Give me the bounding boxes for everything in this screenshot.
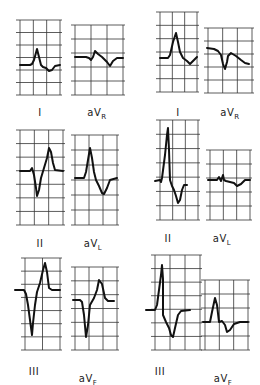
grid-paper: [206, 150, 252, 220]
lead-label: aVF: [203, 373, 243, 385]
ecg-trace: [160, 33, 197, 64]
ecg-panel-r-avr: [204, 28, 254, 93]
ecg-panel-r-i: [156, 12, 199, 92]
grid-paper: [156, 12, 199, 92]
lead-label: I: [20, 107, 60, 118]
ecg-trace: [20, 49, 60, 71]
lead-label: I: [158, 107, 198, 118]
ecg-canvas: [0, 0, 260, 385]
ecg-trace: [75, 148, 117, 194]
grid-paper: [71, 25, 125, 95]
ecg-figure: IaVRIaVRIIaVLIIaVLIIIaVFIIIaVF: [0, 0, 260, 385]
ecg-panel-l-avf: [71, 267, 119, 350]
lead-label: aVR: [210, 107, 250, 121]
lead-label: aVR: [77, 107, 117, 121]
grid-paper: [151, 255, 202, 350]
grid-paper: [204, 28, 254, 93]
lead-label: II: [148, 233, 188, 244]
lead-label: II: [20, 238, 60, 249]
ecg-panel-l-avl: [71, 135, 119, 225]
ecg-panel-l-i: [16, 20, 62, 95]
ecg-trace: [208, 175, 250, 186]
lead-label: aVL: [202, 233, 242, 247]
lead-label: aVF: [68, 373, 108, 385]
grid-paper: [71, 267, 119, 350]
ecg-trace: [20, 148, 63, 196]
ecg-trace: [203, 298, 248, 332]
ecg-panel-r-avf: [201, 280, 250, 350]
ecg-panel-r-ii: [155, 120, 200, 220]
ecg-panel-r-avl: [206, 150, 252, 220]
ecg-panel-l-avr: [71, 25, 125, 95]
ecg-trace: [146, 265, 190, 337]
ecg-panel-l-ii: [16, 130, 65, 225]
grid-paper: [201, 280, 250, 350]
lead-label: aVL: [73, 238, 113, 252]
ecg-trace: [15, 263, 60, 335]
lead-label: III: [14, 366, 54, 377]
ecg-panel-r-iii: [146, 255, 202, 350]
lead-label: III: [140, 366, 180, 377]
ecg-trace: [207, 48, 249, 69]
ecg-panel-l-iii: [15, 258, 62, 350]
